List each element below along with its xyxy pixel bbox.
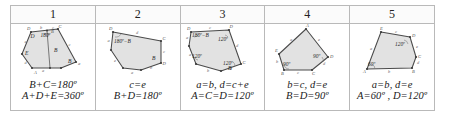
angle-label-4b: 90º [283, 61, 290, 67]
vertex-label-1a: D [26, 26, 31, 31]
column-header-5: 5 [350, 6, 435, 24]
case-cell-1: D C b c c a e d A a D B E [11, 24, 96, 111]
edge-label-4c: c [297, 70, 299, 75]
figure-2: D C D d c b a e a 180º−B B [96, 24, 180, 80]
case-cell-3: D D c d e b a a 180º−B 120º 120º 120º [180, 24, 265, 111]
case-cell-5: E D C B A c e d b a 120º 60º [350, 24, 435, 111]
edge-label-2d: a [131, 70, 134, 75]
angle-label-3b: 120º [218, 36, 228, 42]
vertex-label-1b: C [58, 24, 62, 29]
caption-5-line2: A=60º , D=120º [350, 90, 434, 101]
edge-label-1e: e [24, 39, 26, 44]
column-header-3: 3 [180, 6, 265, 24]
edge-label-4a: e [318, 37, 320, 42]
edge-label-5d: b [388, 69, 391, 74]
angle-label-4a: 90º [313, 53, 320, 59]
vertex-label-4e: E [274, 48, 278, 53]
caption-5-line1: a=b, d=e [350, 79, 434, 90]
figure-3: D D c d e b a a 180º−B 120º 120º 120º [181, 24, 265, 80]
vertex-label-5e: A [362, 69, 366, 74]
region-label-2b: B [152, 55, 156, 61]
edge-label-2a: d [136, 30, 139, 35]
edge-label-2f: a [107, 38, 110, 43]
edge-label-4b: d [323, 61, 326, 66]
figure-1: D C b c c a e d A a D B E [11, 24, 95, 80]
vertex-label-3b: D [229, 24, 234, 29]
captions-4: b=c, d=e B=D=90º [265, 79, 349, 102]
edge-label-2b: c [163, 49, 165, 54]
edge-label-1d: a [42, 68, 45, 73]
cases-table: 1 2 3 4 5 [10, 5, 435, 111]
edge-label-1a: b [40, 25, 43, 30]
caption-1-line2: A+D+E=360º [11, 90, 95, 101]
captions-3: a=b, d=c+e A=C=D=120º [181, 79, 265, 102]
vertex-label-1c: A [33, 70, 37, 75]
vertex-label-4d: B [281, 71, 284, 76]
vertex-label-3a: D [186, 26, 191, 31]
caption-1-line1: B+C=180º [11, 79, 95, 90]
angle-label-2: 180º−B [114, 38, 131, 44]
angle-label-3a: 180º−B [192, 32, 209, 38]
vertex-label-2c: D [161, 61, 166, 66]
edge-label-3d: b [207, 68, 210, 73]
captions-1: B+C=180º A+D+E=360º [11, 79, 95, 102]
region-label-1d: D [29, 33, 34, 39]
vertex-label-1e: B [51, 29, 54, 34]
figure-5: E D C B A c e d b a 120º 60º [350, 24, 434, 80]
edge-label-5b: e [416, 44, 418, 49]
column-header-1: 1 [11, 6, 96, 24]
angle-label-5b: 60º [368, 61, 375, 67]
vertex-label-2a: D [108, 26, 113, 31]
column-header-4: 4 [265, 6, 350, 24]
edge-label-3b: d [236, 43, 239, 48]
vertex-label-5a: E [379, 26, 383, 31]
table-body-row: D C b c c a e d A a D B E [11, 24, 435, 111]
case-cell-4: A D C B E e d c b a 90º 90º [265, 24, 350, 111]
table-header-row: 1 2 3 4 5 [11, 6, 435, 24]
angle-label-3c: 120º [192, 53, 202, 59]
case-cell-2: D C D d c b a e a 180º−B B [95, 24, 180, 111]
edge-label-5c: d [417, 60, 420, 65]
figure-sheet: 1 2 3 4 5 [0, 0, 450, 121]
polygon-diagram-1: D C b c c a e d A a D B E [14, 24, 92, 80]
vertex-label-5b: D [411, 33, 416, 38]
edge-label-2e: e [114, 58, 116, 63]
angle-label-5a: 120º [395, 41, 405, 47]
polygon-diagram-5: E D C B A c e d b a 120º 60º [350, 24, 434, 80]
vertex-label-4a: A [305, 24, 309, 28]
edge-label-4d: b [276, 59, 279, 64]
vertex-label-5c: C [418, 54, 422, 59]
caption-4-line2: B=D=90º [265, 90, 349, 101]
region-label-1e: E [24, 50, 29, 56]
edge-label-5a: c [395, 29, 397, 34]
edge-label-3f: a [186, 35, 189, 40]
caption-2-line1: c=e [96, 79, 180, 90]
vertex-label-5d: B [412, 69, 415, 74]
edge-label-1c: c [68, 42, 70, 47]
vertex-label-4b: D [329, 54, 334, 59]
vertex-label-4c: C [312, 71, 316, 76]
polygon-diagram-4: A D C B E e d c b a 90º 90º [266, 24, 348, 80]
figure-4: A D C B E e d c b a 90º 90º [265, 24, 349, 80]
polygon-diagram-2: D C D d c b a e a 180º−B B [101, 24, 175, 80]
angle-label-1: 180º [40, 32, 50, 38]
caption-4-line1: b=c, d=e [265, 79, 349, 90]
captions-2: c=e B+D=180º [96, 79, 180, 102]
vertex-label-1d: a [78, 61, 81, 66]
region-label-3b: B [228, 65, 232, 71]
region-label-1b: B [54, 47, 58, 53]
column-header-2: 2 [95, 6, 180, 24]
captions-5: a=b, d=e A=60º , D=120º [350, 79, 434, 102]
vertex-label-3c: C [243, 60, 247, 65]
caption-3-line1: a=b, d=c+e [181, 79, 265, 90]
caption-3-line2: A=C=D=120º [181, 90, 265, 101]
edge-label-3a: c [209, 25, 211, 30]
edge-label-5e: a [370, 46, 373, 51]
region-label-1b2: B [68, 58, 72, 64]
polygon-diagram-3: D D c d e b a a 180º−B 120º 120º 120º [183, 24, 261, 80]
vertex-label-2b: C [162, 36, 166, 41]
caption-2-line2: B+D=180º [96, 90, 180, 101]
